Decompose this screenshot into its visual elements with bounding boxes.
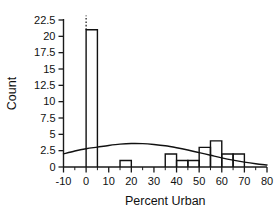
x-tick-label: 20: [125, 175, 137, 187]
x-tick-label: -10: [56, 175, 72, 187]
x-axis-title: Percent Urban: [125, 194, 206, 208]
x-tick-label: 0: [83, 175, 89, 187]
y-tick-label: 22.5: [34, 14, 55, 26]
x-tick-label: 80: [261, 175, 273, 187]
y-tick-label: 5: [49, 128, 55, 140]
y-tick-label: 0: [49, 161, 55, 173]
y-tick-label: 2.5: [40, 144, 55, 156]
y-axis-title: Count: [5, 76, 19, 110]
histogram-chart: 02.557.51012.51517.52022.5 -100102030405…: [0, 0, 275, 218]
x-tick-label: 70: [238, 175, 250, 187]
y-tick-label: 10: [43, 95, 55, 107]
y-tick-label: 17.5: [34, 46, 55, 58]
x-tick-label: 30: [148, 175, 160, 187]
x-tick-label: 10: [103, 175, 115, 187]
y-tick-label: 20: [43, 30, 55, 42]
y-tick-label: 15: [43, 63, 55, 75]
x-tick-label: 60: [216, 175, 228, 187]
y-tick-label: 7.5: [40, 112, 55, 124]
y-tick-label: 12.5: [34, 79, 55, 91]
chart-background: [0, 0, 275, 218]
x-tick-label: 50: [193, 175, 205, 187]
x-tick-label: 40: [170, 175, 182, 187]
chart-canvas: 02.557.51012.51517.52022.5 -100102030405…: [0, 0, 275, 218]
